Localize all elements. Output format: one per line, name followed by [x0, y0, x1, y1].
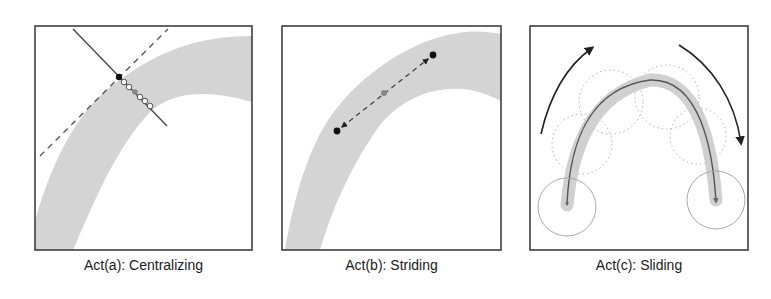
vessel-band: [285, 32, 501, 250]
vessel-band: [567, 80, 716, 205]
panel-frame: [530, 26, 748, 250]
panel-c-sliding: [530, 26, 748, 250]
caption-sliding: Act(c): Sliding: [530, 257, 748, 273]
current-point-black-dot: [116, 74, 122, 80]
caption-striding: Act(b): Striding: [282, 257, 501, 273]
panel-a-centralizing: [35, 26, 252, 250]
stride-point-black-dot: [334, 128, 341, 135]
stride-point-black-dot: [430, 52, 437, 59]
caption-centralizing: Act(a): Centralizing: [35, 257, 252, 273]
vessel-band: [35, 36, 252, 250]
diagram-canvas: [0, 0, 771, 299]
panel-b-striding: [282, 26, 501, 250]
center-gray-dot: [132, 89, 138, 95]
center-gray-dot: [381, 90, 387, 96]
